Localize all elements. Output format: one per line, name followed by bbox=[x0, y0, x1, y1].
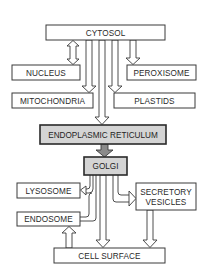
arrow-cytosol-er bbox=[95, 40, 109, 125]
arrow-golgi-lysosome bbox=[81, 175, 94, 195]
arrow-cytosol-plastids bbox=[108, 40, 122, 93]
arrow-er-golgi bbox=[96, 144, 113, 157]
node-lysosome-label: LYSOSOME bbox=[25, 187, 72, 196]
arrow-cytosol-peroxisome bbox=[126, 40, 140, 65]
node-golgi: GOLGI bbox=[84, 157, 127, 175]
node-endosome-label: ENDOSOME bbox=[24, 215, 73, 224]
node-er-label: ENDOPLASMIC RETICULUM bbox=[48, 131, 158, 140]
node-nucleus-label: NUCLEUS bbox=[26, 69, 66, 78]
arrow-golgi-secretory bbox=[113, 175, 136, 206]
arrow-endosome-lysosome bbox=[80, 175, 96, 221]
node-secretory-label-line1: SECRETORY bbox=[140, 188, 192, 197]
node-endoplasmic-reticulum: ENDOPLASMIC RETICULUM bbox=[40, 125, 166, 144]
node-endosome: ENDOSOME bbox=[17, 212, 80, 226]
node-cytosol: CYTOSOL bbox=[46, 25, 165, 40]
node-secretory-vesicles: SECRETORY VESICLES bbox=[136, 183, 196, 210]
arrow-cytosol-mitochondria bbox=[82, 40, 96, 93]
protein-sorting-diagram: CYTOSOL NUCLEUS PEROXISOME MITOCHONDRIA … bbox=[0, 0, 211, 280]
node-cell-surface-label: CELL SURFACE bbox=[78, 252, 141, 261]
arrow-golgi-cellsurface bbox=[96, 175, 110, 248]
arrow-cellsurface-endosome bbox=[62, 227, 76, 249]
node-secretory-label-line2: VESICLES bbox=[146, 198, 187, 207]
node-mitochondria-label: MITOCHONDRIA bbox=[20, 97, 86, 106]
node-golgi-label: GOLGI bbox=[93, 162, 119, 171]
arrow-secretory-cellsurface bbox=[143, 210, 157, 248]
node-peroxisome-label: PEROXISOME bbox=[133, 69, 189, 78]
arrow-cytosol-nucleus bbox=[67, 41, 79, 65]
node-cell-surface: CELL SURFACE bbox=[54, 248, 165, 263]
node-plastids-label: PLASTIDS bbox=[134, 97, 175, 106]
node-lysosome: LYSOSOME bbox=[17, 183, 80, 198]
node-plastids: PLASTIDS bbox=[114, 93, 195, 108]
node-mitochondria: MITOCHONDRIA bbox=[12, 93, 93, 108]
node-nucleus: NUCLEUS bbox=[12, 65, 80, 80]
node-cytosol-label: CYTOSOL bbox=[86, 29, 126, 38]
node-peroxisome: PEROXISOME bbox=[127, 65, 196, 80]
